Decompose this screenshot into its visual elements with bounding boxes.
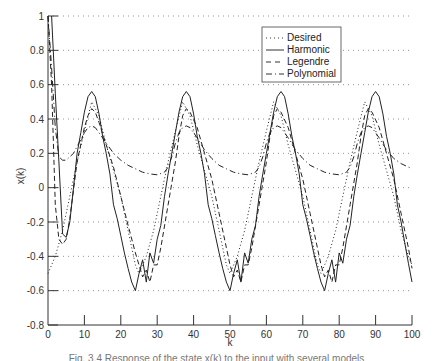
x-tick-label: 10 — [79, 329, 91, 340]
x-tick-label: 30 — [152, 329, 164, 340]
y-tick-label: 0.4 — [30, 114, 44, 125]
series-polynomial — [48, 16, 412, 175]
y-tick-label: -0.8 — [27, 320, 45, 331]
x-tick-label: 40 — [188, 329, 200, 340]
data-series — [48, 16, 412, 291]
legend-label-desired: Desired — [287, 32, 321, 43]
legend: Desired Harmonic Legendre Polynomial — [262, 27, 341, 82]
figure-caption: Fig. 3.4 Response of the state x(k) to t… — [0, 354, 433, 361]
grid-lines — [48, 16, 412, 291]
line-chart: -0.8-0.6-0.4-0.200.20.40.60.81 010203040… — [0, 0, 433, 361]
y-tick-label: -0.2 — [27, 217, 45, 228]
y-tick-label: 0 — [38, 182, 44, 193]
x-tick-label: 80 — [334, 329, 346, 340]
y-tick-label: 0.6 — [30, 79, 44, 90]
y-axis-label: x(k) — [15, 168, 26, 185]
x-tick-label: 20 — [115, 329, 127, 340]
x-tick-label: 0 — [45, 329, 51, 340]
legend-label-harmonic: Harmonic — [287, 44, 330, 55]
x-tick-label: 100 — [404, 329, 421, 340]
legend-label-polynomial: Polynomial — [287, 68, 336, 79]
x-tick-label: 70 — [297, 329, 309, 340]
series-desired — [48, 102, 412, 274]
x-tick-label: 60 — [261, 329, 273, 340]
y-tick-label: -0.6 — [27, 285, 45, 296]
series-legendre — [48, 16, 412, 282]
x-ticks: 0102030405060708090100 — [45, 315, 421, 340]
series-harmonic — [52, 16, 412, 291]
legend-label-legendre: Legendre — [287, 56, 330, 67]
y-tick-label: -0.4 — [27, 251, 45, 262]
x-tick-label: 90 — [370, 329, 382, 340]
y-tick-label: 0.8 — [30, 45, 44, 56]
y-tick-label: 0.2 — [30, 148, 44, 159]
y-tick-label: 1 — [38, 11, 44, 22]
